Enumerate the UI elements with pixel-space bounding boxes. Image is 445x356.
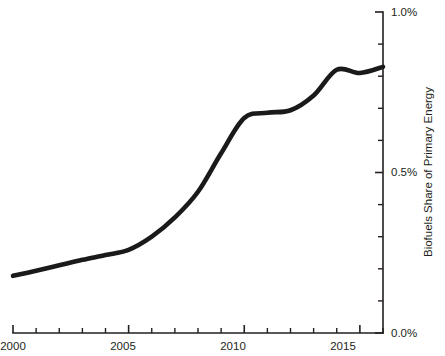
x-tick-label-2005: 2005: [110, 340, 136, 352]
chart-background: [0, 0, 445, 356]
y-tick-label-000: 0.0%: [391, 327, 417, 339]
x-tick-label-2015: 2015: [330, 340, 356, 352]
y-tick-label-100: 1.0%: [391, 6, 417, 18]
y-axis-title: Biofuels Share of Primary Energy: [422, 87, 434, 257]
y-tick-label-050: 0.5%: [391, 166, 417, 178]
chart-container: 2000 2005 2010 2015 1.0% 0.5% 0.0% Biofu…: [0, 0, 445, 356]
x-tick-label-2010: 2010: [220, 340, 246, 352]
x-tick-label-2000: 2000: [0, 340, 26, 352]
line-chart: 2000 2005 2010 2015 1.0% 0.5% 0.0% Biofu…: [0, 0, 445, 356]
